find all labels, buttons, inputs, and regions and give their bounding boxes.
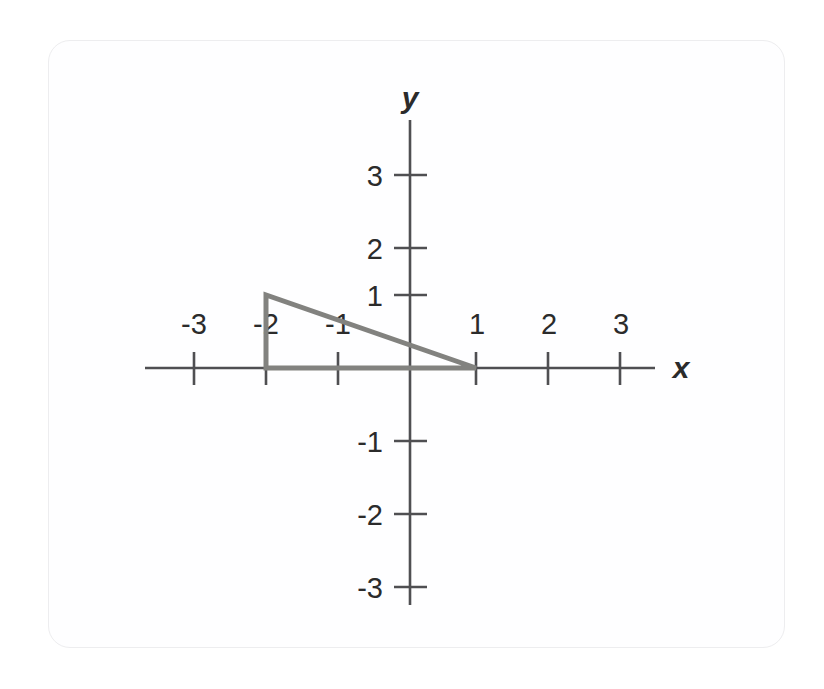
y-axis-tick-labels: 3 2 1 -1 -2 -3: [357, 160, 383, 604]
y-axis-label: y: [400, 81, 420, 114]
y-tick-label-2: 2: [367, 233, 383, 265]
y-tick-label-1: 1: [367, 280, 383, 312]
x-tick-label-2: 2: [541, 308, 557, 340]
y-tick-label--2: -2: [357, 499, 383, 531]
figure-root: -3 -2 -1 1 2 3 3 2 1 -1 -2 -3 x y: [0, 0, 824, 689]
y-tick-label-3: 3: [367, 160, 383, 192]
x-tick-label--3: -3: [181, 308, 207, 340]
coordinate-plane-svg: -3 -2 -1 1 2 3 3 2 1 -1 -2 -3 x y: [0, 0, 824, 689]
y-tick-label--3: -3: [357, 572, 383, 604]
x-axis-label: x: [671, 351, 691, 384]
x-tick-label-3: 3: [613, 308, 629, 340]
x-tick-label-1: 1: [469, 308, 485, 340]
x-axis-tick-labels: -3 -2 -1 1 2 3: [181, 308, 629, 340]
y-tick-label--1: -1: [357, 426, 383, 458]
